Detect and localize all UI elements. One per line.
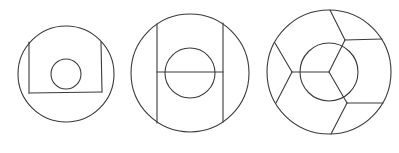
- geometric-figures-diagram: [0, 0, 399, 153]
- figure-1: [18, 26, 114, 122]
- line-segment: [329, 40, 345, 72]
- inner-circle: [51, 59, 81, 89]
- line-segment: [29, 92, 102, 93]
- figure-2: [131, 14, 249, 132]
- outer-circle: [131, 14, 249, 132]
- line-segment: [329, 72, 347, 103]
- line-segment: [345, 39, 382, 40]
- inner-circle: [165, 48, 215, 98]
- line-segment: [276, 72, 292, 103]
- line-segment: [330, 10, 345, 40]
- line-segment: [101, 42, 102, 92]
- line-segment: [275, 43, 292, 72]
- figure-3: [267, 10, 391, 134]
- diagram-canvas: [0, 0, 399, 153]
- outer-circle: [18, 26, 114, 122]
- line-segment: [331, 103, 347, 134]
